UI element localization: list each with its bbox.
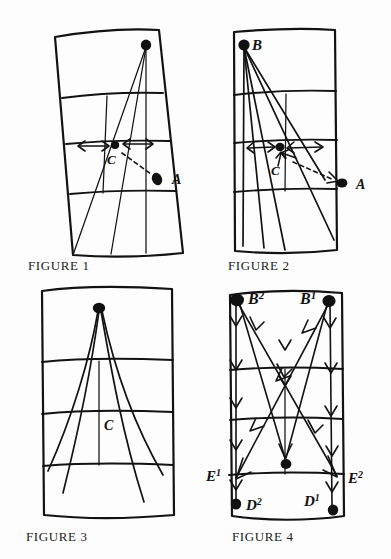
figure-4-b2-dot <box>230 294 244 306</box>
figure-3-gridline-1 <box>42 359 173 362</box>
figure-3-ray-1 <box>48 311 98 471</box>
figure-1-drawing: C A <box>0 0 200 262</box>
figure-4-label-e2: E2 <box>347 469 363 486</box>
figure-2-ray-1 <box>243 47 244 246</box>
figure-3-ray-4 <box>102 311 163 475</box>
figure-2-ray-5 <box>244 47 325 180</box>
figure-2-a-dot <box>337 178 348 187</box>
figure-1-caption: FIGURE 1 <box>28 258 90 274</box>
figure-3-apex-dot <box>93 303 105 313</box>
figure-3-frame <box>42 287 174 518</box>
scanned-figure-page: C A FIGURE 1 B <box>0 0 391 559</box>
figure-4-panel: B2 B1 E1 E2 D2 D1 <box>196 278 391 520</box>
figure-2-drawing: B C <box>196 0 391 262</box>
figure-3-label-c: C <box>104 418 114 433</box>
figure-3-panel: C <box>0 278 200 520</box>
figure-2-caption: FIGURE 2 <box>228 258 290 274</box>
figure-4-label-d2: D2 <box>245 496 262 513</box>
figure-4-drawing: B2 B1 E1 E2 D2 D1 <box>196 278 391 520</box>
figure-2-inner-vertical <box>285 94 286 191</box>
figure-4-d2-dot <box>231 498 241 509</box>
figure-1-gridline-1 <box>62 93 163 98</box>
figure-4-label-b1: B1 <box>299 289 316 307</box>
figure-3-ray-2 <box>63 311 99 493</box>
figure-3-caption: FIGURE 3 <box>26 529 88 545</box>
figure-4-label-d1: D1 <box>303 492 320 509</box>
figure-2-double-arrow-right <box>287 142 323 153</box>
figure-2-panel: B C <box>196 0 391 262</box>
figure-3-gridline-2 <box>42 411 173 414</box>
figure-4-caption: FIGURE 4 <box>232 529 294 545</box>
figure-2-c-to-a-dashed <box>293 162 334 180</box>
figure-4-frame <box>230 291 344 520</box>
figure-1-c-dot <box>111 141 119 149</box>
figure-4-label-e1: E1 <box>205 467 221 484</box>
figure-4-gridline-1 <box>230 368 343 370</box>
figure-2-c-dot <box>275 143 284 151</box>
figure-3-gridline-3 <box>43 464 173 466</box>
figure-1-a-dot <box>150 171 164 187</box>
figure-1-label-a: A <box>171 172 181 187</box>
figure-3-drawing: C <box>0 278 200 520</box>
figure-1-label-c: C <box>107 152 116 167</box>
figure-4-center-dot <box>281 459 292 469</box>
figure-1-panel: C A <box>0 0 200 262</box>
figure-2-b-dot <box>238 39 249 50</box>
figure-2-label-a: A <box>355 177 365 192</box>
figure-3-ray-3 <box>101 311 144 502</box>
figure-4-gridline-2 <box>230 418 343 420</box>
figure-2-ray-4 <box>244 47 334 240</box>
figure-4-label-b2: B2 <box>247 289 265 307</box>
figure-2-double-arrow-left <box>247 142 275 153</box>
figure-1-focus-dot <box>141 40 151 51</box>
figure-2-label-c: C <box>271 163 280 178</box>
figure-1-ray-2 <box>111 47 146 254</box>
figure-4-d1-dot <box>328 504 338 515</box>
figure-4-b1-dot <box>322 295 335 307</box>
figure-2-label-b: B <box>251 37 262 53</box>
figure-1-gridline-3 <box>70 191 176 194</box>
